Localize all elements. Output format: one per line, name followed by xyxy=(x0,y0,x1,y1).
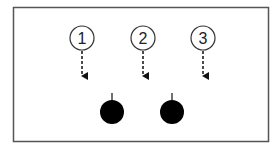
filled-dot-icon xyxy=(100,100,124,124)
diagram-canvas: 1 2 3 xyxy=(0,0,280,145)
filled-dot-icon xyxy=(160,100,184,124)
marker-label: 3 xyxy=(199,30,208,47)
marker-label: 1 xyxy=(78,30,87,47)
marker-label: 2 xyxy=(139,30,148,47)
